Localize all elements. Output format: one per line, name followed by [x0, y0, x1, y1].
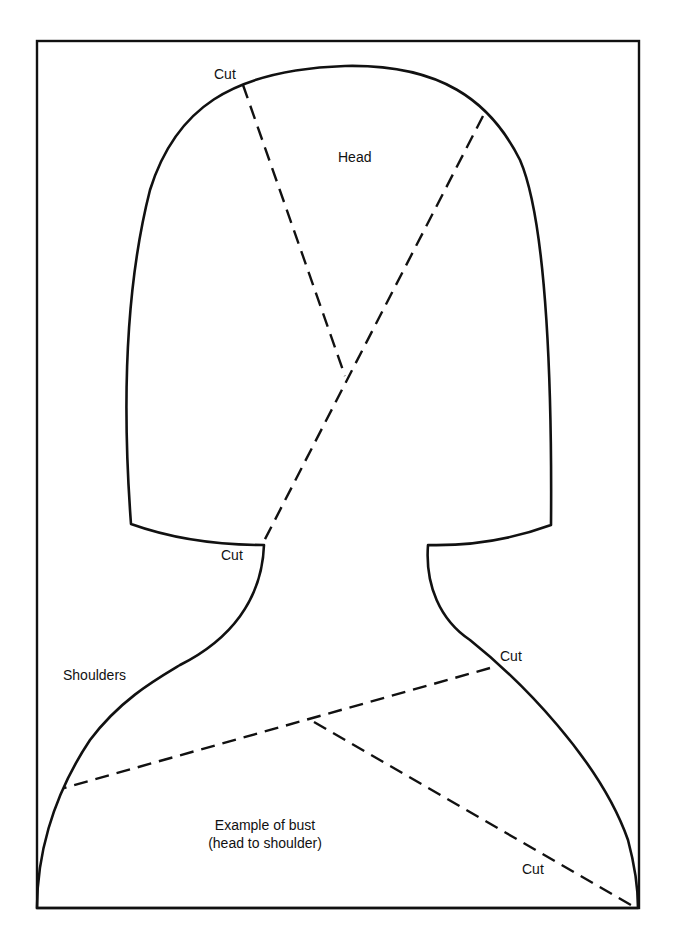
- cut-label-top-left: Cut: [214, 66, 236, 83]
- bust-outline: [37, 66, 638, 908]
- bust-pattern-drawing: [0, 0, 674, 946]
- cut-line-head-left: [243, 85, 345, 376]
- head-label: Head: [338, 149, 371, 166]
- shoulders-label: Shoulders: [63, 667, 126, 684]
- cut-line-bust-diagonal: [314, 722, 636, 908]
- cut-label-neck-left: Cut: [221, 547, 243, 564]
- caption-line-2: (head to shoulder): [190, 835, 340, 852]
- cut-label-shoulder-right: Cut: [500, 648, 522, 665]
- cut-line-head-diagonal: [262, 116, 483, 545]
- cut-line-shoulders: [64, 668, 490, 788]
- cut-label-bottom-right: Cut: [522, 861, 544, 878]
- diagram-canvas: Cut Head Cut Shoulders Cut Example of bu…: [0, 0, 674, 946]
- caption-line-1: Example of bust: [195, 817, 335, 834]
